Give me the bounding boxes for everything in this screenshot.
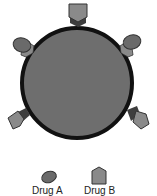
legend-drug-b-icon [92, 167, 106, 184]
receptor-lower-right [127, 106, 149, 129]
receptor-upper-right [120, 33, 143, 57]
legend-drug-a-icon [40, 169, 58, 184]
receptor-top [69, 4, 87, 27]
legend-label-drug-a: Drug A [32, 186, 63, 196]
receptor-lower-left [8, 108, 30, 129]
cell-body [22, 28, 132, 138]
receptor-upper-left [11, 36, 34, 57]
legend-label-drug-b: Drug B [84, 186, 115, 196]
cell-diagram [0, 0, 157, 196]
drug-b-lower-right [133, 111, 149, 129]
